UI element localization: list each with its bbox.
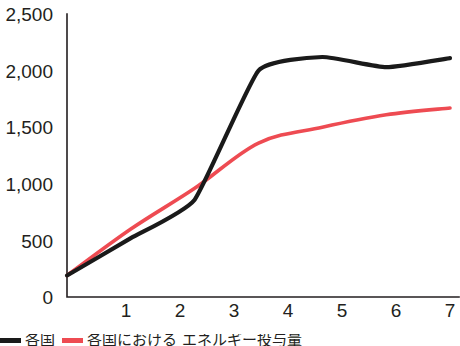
legend-item: 各国	[0, 334, 55, 346]
legend-item: 各国における エネルギー投与量	[62, 334, 302, 346]
chart-figure: 2,500 2,000 1,500 1,000 500 0 1 2 3 4 5 …	[0, 0, 460, 346]
chart-legend: 各国 各国における エネルギー投与量	[0, 334, 460, 346]
legend-label: 各国	[25, 334, 55, 346]
legend-swatch-red	[62, 338, 83, 343]
chart-canvas	[0, 0, 460, 320]
legend-swatch-black	[0, 338, 21, 343]
axis-lines	[67, 14, 459, 297]
plot-area: 2,500 2,000 1,500 1,000 500 0 1 2 3 4 5 …	[0, 0, 460, 320]
legend-caption: 各国における エネルギー投与量	[87, 334, 302, 346]
series-line-black	[67, 57, 450, 275]
series-line-red	[67, 108, 450, 276]
